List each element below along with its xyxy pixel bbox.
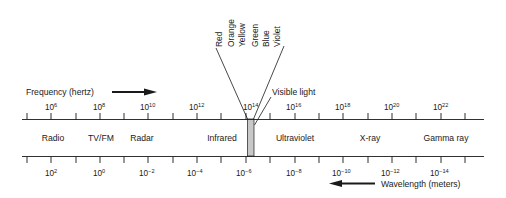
freq-tick-label: 1020 (384, 102, 399, 113)
color-label-green: Green (250, 23, 260, 47)
wavelength-tick-label: 10−4 (187, 168, 203, 179)
freq-tick-label: 106 (45, 102, 57, 113)
color-label-violet: Violet (272, 26, 282, 47)
wavelength-tick-label: 10−10 (332, 168, 351, 179)
freq-tick-label: 1018 (335, 102, 350, 113)
color-label-orange: Orange (226, 19, 236, 47)
freq-tick-label: 1010 (140, 102, 155, 113)
wavelength-tick-label: 10−8 (286, 168, 302, 179)
visible-light-fan (216, 46, 284, 125)
freq-tick-label: 1012 (189, 102, 204, 113)
wavelength-tick-label: 100 (93, 168, 105, 179)
wavelength-tick-label: 10−2 (139, 168, 155, 179)
wavelength-axis-label: Wavelength (meters) (381, 179, 461, 189)
color-label-red: Red (214, 31, 224, 47)
freq-tick-label: 1022 (433, 102, 448, 113)
freq-tick-label: 108 (93, 102, 105, 113)
fan-line-violet-side (254, 46, 285, 119)
frequency-axis (22, 113, 484, 120)
em-spectrum-diagram: Red Orange Yellow Green Blue Violet Visi… (0, 0, 506, 198)
wavelength-tick-label: 102 (45, 168, 57, 179)
wavelength-tick-label: 10−14 (430, 168, 449, 179)
freq-tick-label: 1014 (243, 102, 258, 113)
visible-light-label: Visible light (272, 87, 316, 97)
wavelength-tick-label: 10−6 (236, 168, 252, 179)
frequency-arrow-icon (112, 89, 157, 96)
frequency-axis-label: Frequency (hertz) (26, 87, 94, 97)
band-ultraviolet: Ultraviolet (276, 133, 315, 143)
band-radar: Radar (130, 133, 154, 143)
visible-color-labels: Red Orange Yellow Green Blue Violet (214, 19, 282, 47)
frequency-tick-labels: 106 108 1010 1012 1014 1016 1018 1020 10… (45, 102, 448, 113)
band-infrared: Infrared (207, 133, 237, 143)
spectrum-bands: Radio TV/FM Radar Infrared Ultraviolet X… (42, 133, 469, 143)
band-radio: Radio (42, 133, 65, 143)
band-tv-fm: TV/FM (88, 133, 114, 143)
wavelength-tick-label: 10−12 (381, 168, 400, 179)
freq-tick-label: 1016 (286, 102, 301, 113)
wavelength-axis (22, 157, 484, 164)
band-gamma-ray: Gamma ray (424, 133, 470, 143)
color-label-blue: Blue (261, 30, 271, 47)
wavelength-arrow-icon (329, 180, 375, 187)
band-x-ray: X-ray (360, 133, 381, 143)
visible-light-band (248, 119, 255, 156)
wavelength-tick-labels: 102 100 10−2 10−4 10−6 10−8 10−10 10−12 … (45, 168, 449, 179)
color-label-yellow: Yellow (237, 22, 247, 47)
